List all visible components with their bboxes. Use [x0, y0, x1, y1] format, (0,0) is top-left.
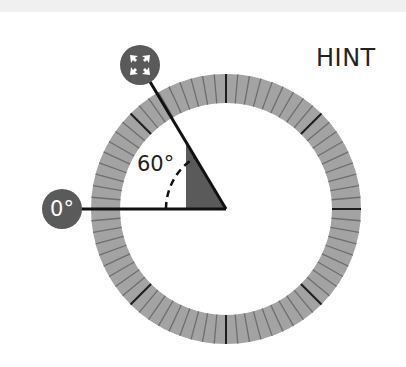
hint-button[interactable]: HINT [316, 44, 376, 72]
rotate-handle[interactable] [120, 45, 160, 85]
angle-value-label: 60° [137, 152, 174, 176]
zero-degree-label: 0° [50, 197, 74, 221]
zero-degree-handle[interactable]: 0° [42, 189, 82, 229]
move-arrows-icon [127, 52, 153, 78]
